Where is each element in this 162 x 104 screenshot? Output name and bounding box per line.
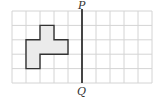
reflection-diagram: P Q <box>0 0 162 104</box>
point-q-label: Q <box>77 85 86 98</box>
point-p-label: P <box>77 0 86 12</box>
l-shaped-polygon <box>26 25 68 68</box>
